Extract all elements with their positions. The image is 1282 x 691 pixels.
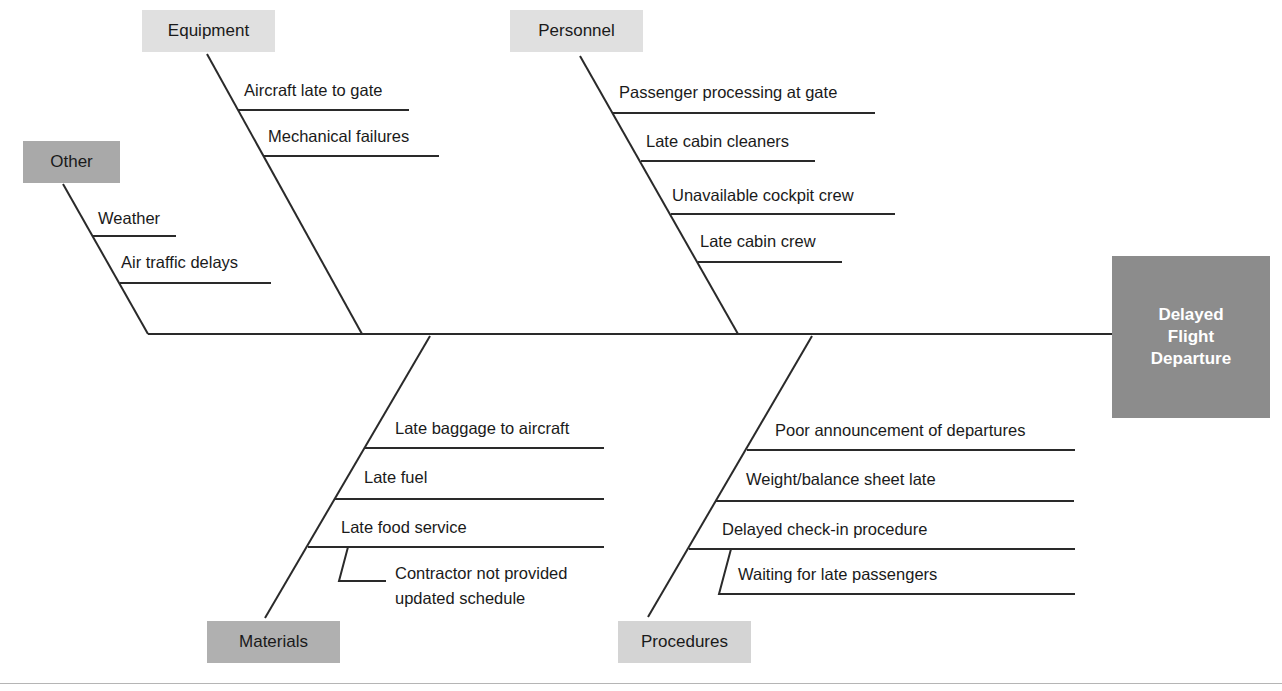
cause-delayed-check-in: Delayed check-in procedure — [722, 519, 927, 539]
effect-line-1: Delayed — [1151, 304, 1231, 326]
cause-mechanical-failures: Mechanical failures — [268, 126, 409, 146]
cause-aircraft-late-to-gate: Aircraft late to gate — [244, 80, 383, 100]
sub-cause-waiting-late-passengers: Waiting for late passengers — [738, 564, 937, 584]
diagram-lines — [0, 0, 1282, 691]
cause-late-fuel: Late fuel — [364, 467, 427, 487]
category-materials: Materials — [207, 621, 340, 663]
effect-line-3: Departure — [1151, 348, 1231, 370]
cause-weight-balance-late: Weight/balance sheet late — [746, 469, 936, 489]
category-procedures: Procedures — [618, 621, 751, 663]
category-other: Other — [23, 141, 120, 183]
cause-weather: Weather — [98, 208, 160, 228]
effect-box: Delayed Flight Departure — [1112, 256, 1270, 418]
category-personnel: Personnel — [510, 10, 643, 52]
cause-late-cabin-cleaners: Late cabin cleaners — [646, 131, 789, 151]
category-equipment: Equipment — [142, 10, 275, 52]
cause-late-baggage: Late baggage to aircraft — [395, 418, 569, 438]
fishbone-diagram: Other Equipment Personnel Materials Proc… — [0, 0, 1282, 691]
cause-poor-announcement: Poor announcement of departures — [775, 420, 1025, 440]
sub-cause-line-contractor — [339, 547, 386, 581]
sub-cause-contractor-line1: Contractor not provided — [395, 563, 567, 583]
sub-cause-contractor-line2: updated schedule — [395, 588, 525, 608]
effect-line-2: Flight — [1151, 326, 1231, 348]
bottom-divider — [0, 683, 1282, 684]
cause-late-cabin-crew: Late cabin crew — [700, 231, 816, 251]
cause-unavailable-cockpit-crew: Unavailable cockpit crew — [672, 185, 854, 205]
cause-late-food-service: Late food service — [341, 517, 467, 537]
cause-passenger-processing: Passenger processing at gate — [619, 82, 837, 102]
cause-air-traffic-delays: Air traffic delays — [121, 252, 238, 272]
